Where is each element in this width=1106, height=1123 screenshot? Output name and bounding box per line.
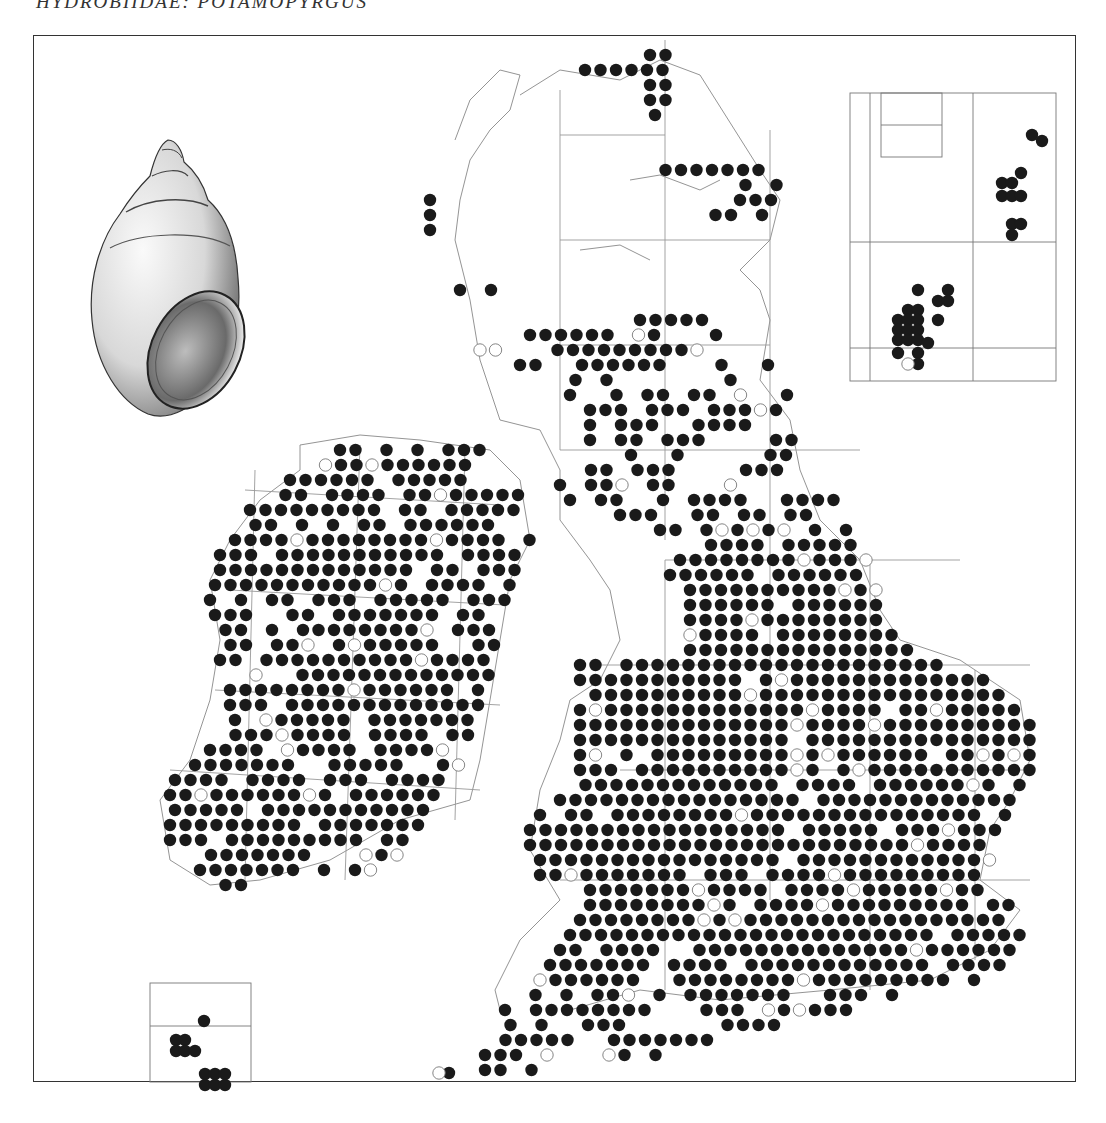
filled-record-dot <box>214 549 226 561</box>
filled-record-dot <box>467 624 479 636</box>
filled-record-dot <box>667 689 679 701</box>
filled-record-dot <box>683 959 695 971</box>
filled-record-dot <box>472 639 484 651</box>
filled-record-dot <box>610 64 622 76</box>
filled-record-dot <box>715 599 727 611</box>
filled-record-dot <box>224 609 236 621</box>
filled-record-dot <box>700 524 712 536</box>
filled-record-dot <box>328 594 340 606</box>
filled-record-dot <box>941 944 953 956</box>
filled-record-dot <box>670 1034 682 1046</box>
filled-record-dot <box>992 734 1004 746</box>
filled-record-dot <box>649 1049 661 1061</box>
filled-record-dot <box>364 609 376 621</box>
filled-record-dot <box>721 1019 733 1031</box>
filled-record-dot <box>853 659 865 671</box>
filled-record-dot <box>734 194 746 206</box>
open-record-dot <box>754 404 766 416</box>
filled-record-dot <box>958 839 970 851</box>
filled-record-dot <box>622 359 634 371</box>
filled-record-dot <box>801 884 813 896</box>
filled-record-dot <box>854 584 866 596</box>
filled-record-dot <box>766 854 778 866</box>
filled-record-dot <box>235 744 247 756</box>
filled-record-dot <box>942 284 954 296</box>
filled-record-dot <box>855 989 867 1001</box>
filled-record-dot <box>641 929 653 941</box>
filled-record-dot <box>956 884 968 896</box>
filled-record-dot <box>642 869 654 881</box>
open-record-dot <box>364 864 376 876</box>
filled-record-dot <box>312 744 324 756</box>
filled-record-dot <box>266 759 278 771</box>
filled-record-dot <box>922 337 934 349</box>
filled-record-dot <box>823 644 835 656</box>
filled-record-dot <box>286 579 298 591</box>
filled-record-dot <box>477 534 489 546</box>
filled-record-dot <box>766 809 778 821</box>
filled-record-dot <box>775 764 787 776</box>
filled-record-dot <box>848 944 860 956</box>
filled-record-dot <box>692 899 704 911</box>
filled-record-dot <box>782 974 794 986</box>
filled-record-dot <box>813 554 825 566</box>
filled-record-dot <box>381 789 393 801</box>
filled-record-dot <box>824 1004 836 1016</box>
filled-record-dot <box>321 504 333 516</box>
filled-record-dot <box>834 569 846 581</box>
filled-record-dot <box>432 774 444 786</box>
filled-record-dot <box>384 729 396 741</box>
filled-record-dot <box>271 579 283 591</box>
filled-record-dot <box>992 749 1004 761</box>
filled-record-dot <box>235 759 247 771</box>
filled-record-dot <box>756 839 768 851</box>
filled-record-dot <box>348 609 360 621</box>
filled-record-dot <box>761 599 773 611</box>
filled-record-dot <box>853 719 865 731</box>
filled-record-dot <box>291 549 303 561</box>
filled-record-dot <box>255 684 267 696</box>
filled-record-dot <box>920 779 932 791</box>
open-record-dot <box>940 884 952 896</box>
filled-record-dot <box>777 629 789 641</box>
filled-record-dot <box>554 944 566 956</box>
filled-record-dot <box>746 644 758 656</box>
filled-record-dot <box>239 699 251 711</box>
open-record-dot <box>791 719 803 731</box>
filled-record-dot <box>251 759 263 771</box>
filled-record-dot <box>694 839 706 851</box>
filled-record-dot <box>751 554 763 566</box>
filled-record-dot <box>700 1004 712 1016</box>
filled-record-dot <box>353 534 365 546</box>
filled-record-dot <box>760 674 772 686</box>
filled-record-dot <box>324 774 336 786</box>
filled-record-dot <box>322 534 334 546</box>
filled-record-dot <box>344 759 356 771</box>
filled-record-dot <box>791 674 803 686</box>
filled-record-dot <box>457 609 469 621</box>
filled-record-dot <box>688 494 700 506</box>
filled-record-dot <box>330 474 342 486</box>
filled-record-dot <box>694 824 706 836</box>
distribution-map <box>0 0 1106 1123</box>
filled-record-dot <box>499 1034 511 1046</box>
filled-record-dot <box>379 609 391 621</box>
filled-record-dot <box>410 639 422 651</box>
filled-record-dot <box>657 929 669 941</box>
filled-record-dot <box>667 749 679 761</box>
filled-record-dot <box>659 94 671 106</box>
filled-record-dot <box>829 539 841 551</box>
filled-record-dot <box>462 729 474 741</box>
filled-record-dot <box>279 489 291 501</box>
filled-record-dot <box>317 579 329 591</box>
filled-record-dot <box>682 659 694 671</box>
filled-record-dot <box>659 79 671 91</box>
filled-record-dot <box>1013 929 1025 941</box>
filled-record-dot <box>806 659 818 671</box>
filled-record-dot <box>967 929 979 941</box>
filled-record-dot <box>312 624 324 636</box>
filled-record-dot <box>579 779 591 791</box>
filled-record-dot <box>755 794 767 806</box>
filled-record-dot <box>850 569 862 581</box>
filled-record-dot <box>198 1015 210 1027</box>
